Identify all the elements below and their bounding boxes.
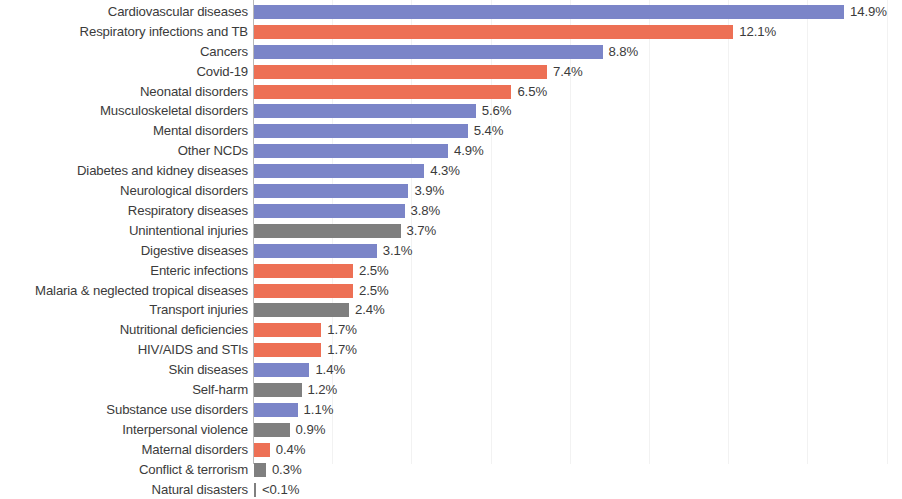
bar-and-value: 6.5% <box>254 82 547 102</box>
bar-value-label: <0.1% <box>262 483 299 497</box>
value-axis-line <box>253 0 254 464</box>
category-label: Skin diseases <box>0 363 248 377</box>
bar-row[interactable]: Covid-197.4% <box>0 62 902 82</box>
category-label: Cancers <box>0 45 248 59</box>
bar[interactable] <box>254 403 298 417</box>
bar-row[interactable]: Natural disasters<0.1% <box>0 480 902 499</box>
bar-row[interactable]: Respiratory infections and TB12.1% <box>0 22 902 42</box>
bar[interactable] <box>254 443 270 457</box>
bar-and-value: 0.9% <box>254 420 325 440</box>
category-label: HIV/AIDS and STIs <box>0 343 248 357</box>
bar-value-label: 3.7% <box>407 224 437 238</box>
bar-and-value: 1.4% <box>254 360 345 380</box>
category-label: Neurological disorders <box>0 184 248 198</box>
bar-and-value: 3.1% <box>254 241 412 261</box>
bar[interactable] <box>254 323 321 337</box>
bar[interactable] <box>254 45 603 59</box>
bar[interactable] <box>254 25 733 39</box>
bar-value-label: 14.9% <box>850 5 887 19</box>
bar-row[interactable]: Skin diseases1.4% <box>0 360 902 380</box>
bar-and-value: 2.5% <box>254 281 389 301</box>
bar-value-label: 3.8% <box>411 204 441 218</box>
bar-value-label: 2.5% <box>359 264 389 278</box>
bar-row[interactable]: Other NCDs4.9% <box>0 141 902 161</box>
bar-value-label: 0.4% <box>276 443 306 457</box>
bar-row[interactable]: Transport injuries2.4% <box>0 301 902 321</box>
bar-row[interactable]: Cardiovascular diseases14.9% <box>0 2 902 22</box>
bar[interactable] <box>254 284 353 298</box>
bar-row[interactable]: Maternal disorders0.4% <box>0 440 902 460</box>
bar-value-label: 12.1% <box>739 25 776 39</box>
bar-and-value: 12.1% <box>254 22 776 42</box>
bar-row[interactable]: Conflict & terrorism0.3% <box>0 460 902 480</box>
bar-row[interactable]: Substance use disorders1.1% <box>0 400 902 420</box>
bar-row[interactable]: Respiratory diseases3.8% <box>0 201 902 221</box>
bar[interactable] <box>254 363 309 377</box>
bar[interactable] <box>254 383 302 397</box>
bar-and-value: 5.4% <box>254 121 503 141</box>
bar[interactable] <box>254 164 424 178</box>
bar-and-value: 1.7% <box>254 340 357 360</box>
bar-value-label: 3.9% <box>414 184 444 198</box>
bar-row[interactable]: HIV/AIDS and STIs1.7% <box>0 340 902 360</box>
bar-row[interactable]: Nutritional deficiencies1.7% <box>0 320 902 340</box>
bar[interactable] <box>254 204 405 218</box>
bar-value-label: 4.3% <box>430 164 460 178</box>
bar-value-label: 5.6% <box>482 104 512 118</box>
category-label: Other NCDs <box>0 144 248 158</box>
bar-and-value: 14.9% <box>254 2 887 22</box>
bar-value-label: 1.4% <box>315 363 345 377</box>
bar-value-label: 2.4% <box>355 303 385 317</box>
bar-value-label: 0.9% <box>296 423 326 437</box>
bar-row[interactable]: Digestive diseases3.1% <box>0 241 902 261</box>
bar[interactable] <box>254 124 468 138</box>
bar-and-value: 5.6% <box>254 102 511 122</box>
bar[interactable] <box>254 65 547 79</box>
category-label: Cardiovascular diseases <box>0 5 248 19</box>
bar[interactable] <box>254 5 844 19</box>
bar[interactable] <box>254 483 256 497</box>
bar[interactable] <box>254 463 266 477</box>
bar-row[interactable]: Enteric infections2.5% <box>0 261 902 281</box>
bar-row[interactable]: Self-harm1.2% <box>0 380 902 400</box>
category-label: Nutritional deficiencies <box>0 323 248 337</box>
bar-row[interactable]: Cancers8.8% <box>0 42 902 62</box>
bar-row[interactable]: Diabetes and kidney diseases4.3% <box>0 161 902 181</box>
bar-row[interactable]: Neurological disorders3.9% <box>0 181 902 201</box>
bar-and-value: 3.7% <box>254 221 436 241</box>
bar-and-value: <0.1% <box>254 480 299 499</box>
bar[interactable] <box>254 244 377 258</box>
category-label: Digestive diseases <box>0 244 248 258</box>
bar-value-label: 6.5% <box>517 85 547 99</box>
category-label: Natural disasters <box>0 483 248 497</box>
bar-row[interactable]: Unintentional injuries3.7% <box>0 221 902 241</box>
bar-row[interactable]: Neonatal disorders6.5% <box>0 82 902 102</box>
bar[interactable] <box>254 423 290 437</box>
bar-value-label: 1.7% <box>327 323 357 337</box>
bar-row[interactable]: Mental disorders5.4% <box>0 121 902 141</box>
bar-row[interactable]: Interpersonal violence0.9% <box>0 420 902 440</box>
bar-value-label: 0.3% <box>272 463 302 477</box>
bar[interactable] <box>254 303 349 317</box>
category-label: Transport injuries <box>0 303 248 317</box>
category-label: Interpersonal violence <box>0 423 248 437</box>
bar-and-value: 8.8% <box>254 42 638 62</box>
bar[interactable] <box>254 184 408 198</box>
bar[interactable] <box>254 224 401 238</box>
bar[interactable] <box>254 264 353 278</box>
bar-value-label: 4.9% <box>454 144 484 158</box>
bar-and-value: 0.4% <box>254 440 305 460</box>
bar-and-value: 0.3% <box>254 460 302 480</box>
bar[interactable] <box>254 343 321 357</box>
bar-row[interactable]: Musculoskeletal disorders5.6% <box>0 102 902 122</box>
category-label: Malaria & neglected tropical diseases <box>0 284 248 298</box>
bar[interactable] <box>254 104 476 118</box>
category-label: Maternal disorders <box>0 443 248 457</box>
category-label: Substance use disorders <box>0 403 248 417</box>
bar[interactable] <box>254 144 448 158</box>
bar-and-value: 4.3% <box>254 161 460 181</box>
bar[interactable] <box>254 85 511 99</box>
bar-row[interactable]: Malaria & neglected tropical diseases2.5… <box>0 281 902 301</box>
